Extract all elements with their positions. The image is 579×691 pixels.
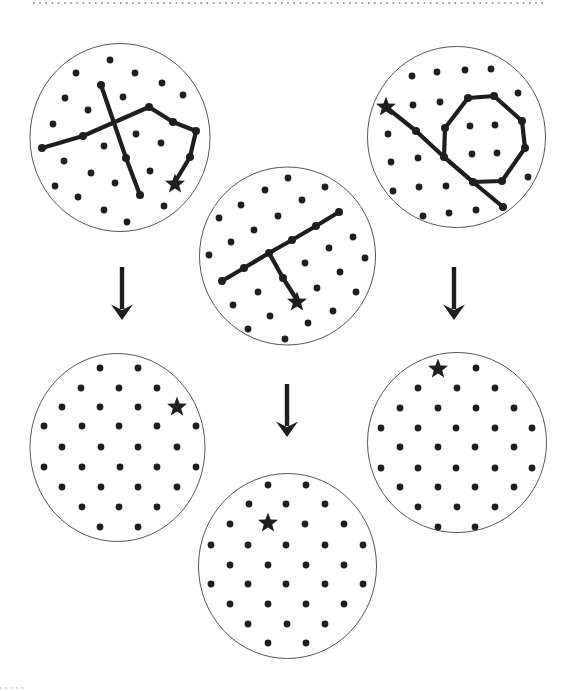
pattern-dot: [397, 444, 404, 451]
pattern-dot: [420, 213, 427, 220]
pattern-dot: [174, 484, 181, 491]
pattern-dot: [303, 482, 310, 489]
pattern-dot: [416, 184, 423, 191]
dot-constellation-diagram: [0, 0, 579, 691]
pattern-dot: [97, 524, 104, 531]
constellation-node-dot: [122, 154, 130, 162]
pattern-dot: [462, 67, 469, 74]
pattern-dot: [397, 405, 404, 412]
pattern-dot: [284, 621, 291, 628]
pattern-dot: [79, 504, 86, 511]
pattern-dot: [473, 365, 480, 372]
pattern-dot: [117, 464, 124, 471]
pattern-dot: [303, 562, 310, 569]
pattern-dot: [41, 464, 48, 471]
pattern-dot: [435, 484, 442, 491]
constellation-node-dot: [279, 274, 287, 282]
pattern-dot: [135, 524, 142, 531]
pattern-dot: [147, 168, 154, 175]
pattern-dot: [88, 170, 95, 177]
pattern-dot: [107, 57, 114, 64]
pattern-dot: [245, 581, 252, 588]
pattern-dot: [154, 504, 161, 511]
constellation-node-dot: [136, 191, 144, 199]
pattern-dot: [435, 444, 442, 451]
pattern-dot: [41, 423, 48, 430]
pattern-dot: [282, 336, 289, 343]
pattern-dot: [79, 464, 86, 471]
pattern-dot: [85, 107, 92, 114]
pattern-dot: [472, 484, 479, 491]
pattern-dot: [453, 465, 460, 472]
pattern-dot: [446, 210, 453, 217]
constellation-node-dot: [499, 203, 507, 211]
pattern-dot: [435, 524, 442, 531]
pattern-dot: [73, 70, 80, 77]
pattern-dot: [435, 405, 442, 412]
pattern-dot: [473, 405, 480, 412]
pattern-dot: [265, 482, 272, 489]
pattern-dot: [245, 542, 252, 549]
pattern-dot: [469, 151, 476, 158]
pattern-dot: [135, 484, 142, 491]
pattern-dot: [492, 504, 499, 511]
pattern-dot: [120, 94, 127, 101]
pattern-dot: [216, 215, 223, 222]
pattern-dot: [388, 159, 395, 166]
constellation-node-dot: [490, 92, 498, 100]
pattern-dot: [494, 150, 501, 157]
pattern-dot: [472, 524, 479, 531]
pattern-dot: [116, 504, 123, 511]
pattern-dot: [154, 385, 161, 392]
pattern-dot: [467, 123, 474, 130]
pattern-dot: [472, 444, 479, 451]
pattern-dot: [245, 621, 252, 628]
pattern-dot: [154, 464, 161, 471]
pattern-dot: [283, 581, 290, 588]
pattern-dot: [488, 66, 495, 73]
constellation-node-dot: [97, 81, 105, 89]
pattern-dot: [285, 175, 292, 182]
pattern-dot: [206, 252, 213, 259]
pattern-dot: [208, 542, 215, 549]
constellation-node-dot: [335, 208, 343, 216]
pattern-dot: [322, 184, 329, 191]
pattern-dot: [322, 581, 329, 588]
pattern-dot: [434, 69, 441, 76]
pattern-dot: [415, 385, 422, 392]
pattern-dot: [98, 484, 105, 491]
pattern-dot: [305, 320, 312, 327]
page-background: [0, 0, 579, 691]
constellation-node-dot: [79, 132, 87, 140]
constellation-node-dot: [192, 127, 200, 135]
pattern-dot: [161, 203, 168, 210]
pattern-dot: [124, 219, 131, 226]
pattern-dot: [390, 188, 397, 195]
pattern-dot: [341, 601, 348, 608]
pattern-dot: [59, 404, 66, 411]
pattern-dot: [492, 122, 499, 129]
pattern-dot: [341, 521, 348, 528]
constellation-node-dot: [288, 236, 296, 244]
constellation-node-dot: [240, 264, 248, 272]
pattern-dot: [454, 385, 461, 392]
pattern-dot: [397, 484, 404, 491]
pattern-dot: [97, 404, 104, 411]
constellation-node-dot: [186, 153, 194, 161]
pattern-dot: [50, 121, 57, 128]
pattern-dot: [299, 197, 306, 204]
pattern-dot: [133, 131, 140, 138]
pattern-dot: [525, 174, 532, 181]
worksheet-page: [0, 0, 579, 691]
constellation-node-dot: [464, 94, 472, 102]
constellation-node-dot: [218, 277, 226, 285]
pattern-dot: [353, 289, 360, 296]
pattern-dot: [98, 444, 105, 451]
pattern-dot: [378, 465, 385, 472]
constellation-node-dot: [412, 127, 420, 135]
pattern-dot: [62, 95, 69, 102]
pattern-dot: [378, 425, 385, 432]
pattern-dot: [265, 601, 272, 608]
pattern-dot: [61, 158, 68, 165]
pattern-dot: [511, 405, 518, 412]
